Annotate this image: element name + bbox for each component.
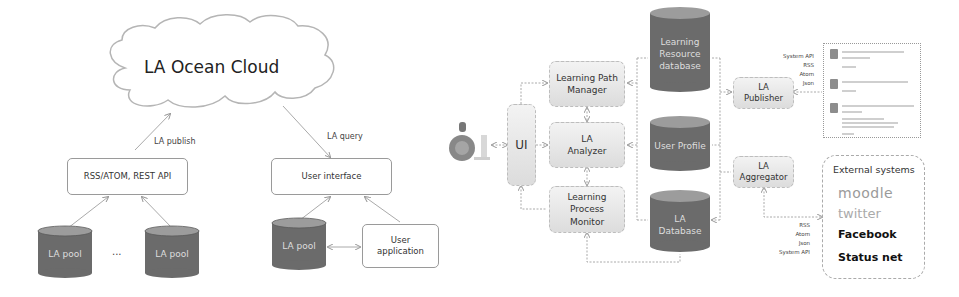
learning-resource-db-label: Learning Resource database: [650, 30, 710, 80]
status-net-label: Status net: [838, 251, 903, 264]
monitor-line1: Learning: [567, 191, 606, 203]
aggregator-format: RSS: [766, 221, 810, 230]
aggregator-line2: Aggregator: [740, 172, 788, 183]
learning-path-manager-box: Learning Path Manager: [549, 61, 625, 107]
learning-process-monitor-box: Learning Process Monitor: [549, 186, 625, 233]
lpm-line2: Manager: [567, 84, 606, 96]
publisher-format: Atom: [770, 70, 814, 79]
monitor-line3: Monitor: [570, 216, 604, 228]
publisher-format: RSS: [770, 61, 814, 70]
lrdb-line1: Learning: [660, 37, 699, 49]
analyzer-line1: LA: [581, 133, 592, 145]
publisher-format-list: System API RSS Atom Json: [770, 52, 814, 88]
lrdb-line3: database: [659, 61, 701, 73]
aggregator-format: System API: [766, 248, 810, 257]
monitor-line2: Process: [570, 203, 604, 215]
ladb-line1: LA: [674, 214, 685, 226]
la-analyzer-box: LA Analyzer: [549, 122, 625, 168]
la-database-label: LA Database: [650, 208, 710, 244]
ladb-line2: Database: [659, 226, 702, 238]
lrdb-line2: Resource: [659, 49, 700, 61]
publisher-line1: LA: [758, 82, 769, 93]
publisher-format: System API: [770, 52, 814, 61]
ui-box: UI: [507, 104, 536, 186]
feed-avatar-icon: [830, 103, 838, 113]
aggregator-format-list: RSS Atom Json System API: [766, 221, 810, 257]
aggregator-line1: LA: [758, 161, 769, 172]
lpm-line1: Learning Path: [556, 72, 618, 84]
aggregator-format: Atom: [766, 230, 810, 239]
analyzer-line2: Analyzer: [567, 145, 606, 157]
person-icon: [449, 122, 490, 161]
external-systems-title: External systems: [833, 164, 915, 175]
ui-label: UI: [515, 137, 527, 153]
twitter-logo: twitter: [838, 206, 881, 221]
right-diagram-graphics: [0, 0, 959, 297]
facebook-label: Facebook: [838, 228, 897, 241]
la-aggregator-box: LA Aggregator: [733, 156, 794, 188]
feed-avatar-icon: [830, 49, 838, 59]
publisher-format: Json: [770, 79, 814, 88]
feed-preview-panel: [823, 43, 921, 138]
publisher-line2: Publisher: [744, 93, 783, 104]
aggregator-format: Json: [766, 239, 810, 248]
user-profile-db-label: User Profile: [650, 132, 710, 162]
moodle-logo: moodle: [838, 185, 893, 201]
feed-avatar-icon: [830, 79, 838, 89]
